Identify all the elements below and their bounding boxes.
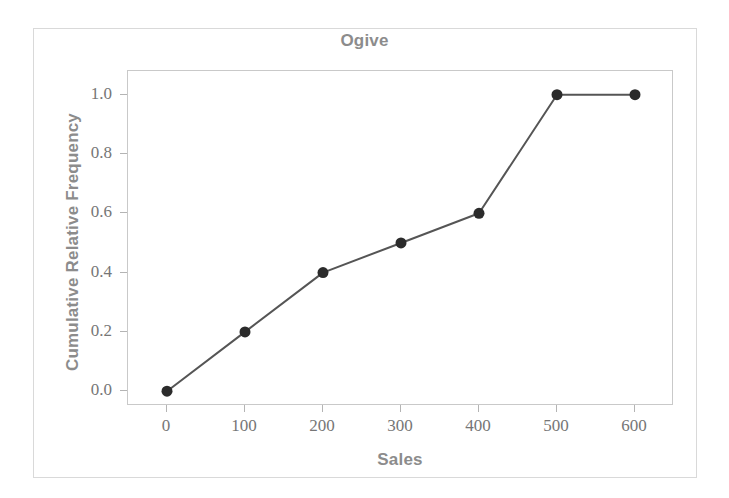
y-tick-label: 0.0 [40, 380, 112, 400]
x-tick-mark [400, 405, 401, 412]
y-tick-mark [120, 153, 127, 154]
x-tick-label: 500 [516, 416, 596, 436]
y-tick-mark [120, 331, 127, 332]
data-point [396, 237, 407, 248]
y-tick-label: 0.4 [40, 262, 112, 282]
x-axis-title: Sales [127, 450, 673, 470]
data-point [162, 386, 173, 397]
y-tick-label: 0.6 [40, 202, 112, 222]
x-tick-label: 600 [594, 416, 674, 436]
x-tick-mark [634, 405, 635, 412]
x-tick-label: 100 [204, 416, 284, 436]
chart-title: Ogive [0, 31, 729, 51]
data-point [474, 208, 485, 219]
y-tick-mark [120, 390, 127, 391]
x-tick-mark [244, 405, 245, 412]
data-point [552, 89, 563, 100]
x-tick-label: 300 [360, 416, 440, 436]
y-tick-mark [120, 94, 127, 95]
x-tick-mark [556, 405, 557, 412]
ogive-line-svg [128, 71, 674, 406]
plot-area [127, 70, 673, 405]
y-tick-mark [120, 212, 127, 213]
x-tick-label: 400 [438, 416, 518, 436]
y-axis-title: Cumulative Relative Frequency [63, 72, 83, 412]
data-point [630, 89, 641, 100]
y-tick-mark [120, 272, 127, 273]
chart-screenshot: Ogive Cumulative Relative Frequency Sale… [0, 0, 729, 498]
x-tick-mark [322, 405, 323, 412]
data-markers [162, 89, 641, 396]
data-point [240, 326, 251, 337]
y-tick-label: 0.2 [40, 321, 112, 341]
y-tick-label: 0.8 [40, 143, 112, 163]
data-point [318, 267, 329, 278]
x-tick-mark [166, 405, 167, 412]
x-tick-label: 200 [282, 416, 362, 436]
x-tick-label: 0 [126, 416, 206, 436]
y-tick-label: 1.0 [40, 84, 112, 104]
x-tick-mark [478, 405, 479, 412]
